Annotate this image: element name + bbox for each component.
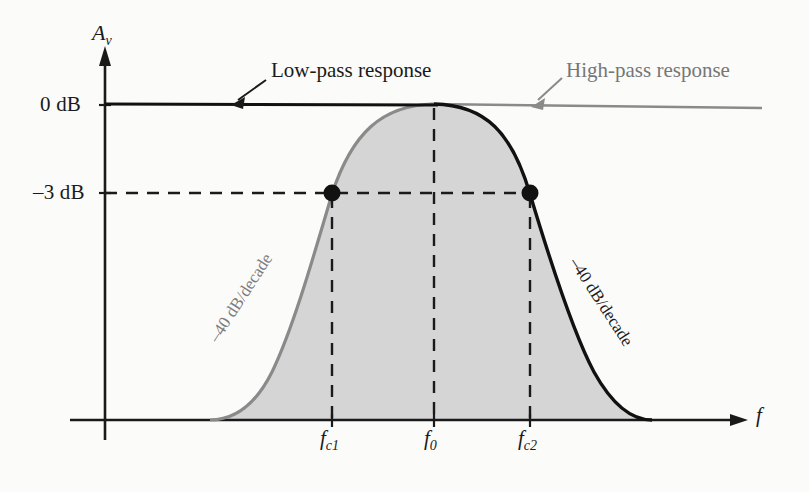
highpass-flat-line xyxy=(430,104,762,108)
y-tick-label-0db: 0 dB xyxy=(40,94,81,115)
x-tick-label-fc2-subscript: c2 xyxy=(524,438,537,453)
x-tick-label-fc2: fc2 xyxy=(518,428,537,453)
x-tick-label-fc1-subscript: c1 xyxy=(326,438,339,453)
x-axis-title: f xyxy=(756,405,762,426)
x-axis-title-base: f xyxy=(756,403,762,427)
bandpass-response-figure: Av f 0 dB –3 dB fc1 f0 fc2 Low-pass resp… xyxy=(0,0,809,492)
y-tick-label-minus3db: –3 dB xyxy=(33,182,85,203)
y-axis-title-subscript: v xyxy=(105,33,111,48)
highpass-response-callout: High-pass response xyxy=(566,60,730,81)
y-axis-title-base: A xyxy=(92,20,105,45)
lowpass-response-callout: Low-pass response xyxy=(271,60,431,81)
highpass-callout-leader xyxy=(538,78,562,100)
x-axis-arrowhead xyxy=(730,414,748,426)
x-tick-label-fc1: fc1 xyxy=(320,428,339,453)
x-tick-label-f0: f0 xyxy=(424,428,437,453)
marker-fc1-point xyxy=(324,185,341,202)
lowpass-callout-leader xyxy=(238,80,266,100)
lowpass-flat-line xyxy=(105,104,438,105)
x-tick-label-f0-subscript: 0 xyxy=(430,438,437,453)
y-axis-arrowhead xyxy=(99,46,111,66)
marker-fc2-point xyxy=(522,185,539,202)
y-axis-title: Av xyxy=(92,22,112,48)
